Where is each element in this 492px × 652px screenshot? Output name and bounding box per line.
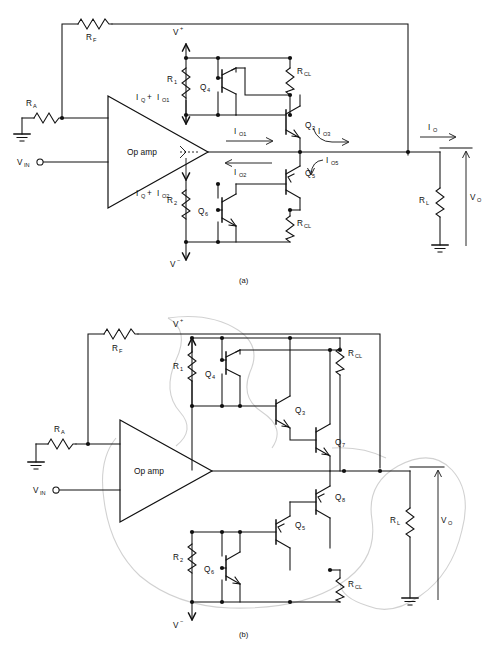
label-iq-io1-a-sub: Q [141, 97, 146, 103]
label-ra-sub-b: A [61, 429, 65, 435]
junction-dot [238, 530, 242, 534]
label-ra: R [26, 99, 32, 108]
label-rl-sub-b: L [397, 520, 400, 526]
label-iq-io1-b: I [157, 93, 159, 102]
label-io1-sub: O1 [239, 131, 246, 137]
label-r1-b: R [173, 362, 179, 371]
label-vo-b: V [441, 516, 447, 525]
pencil-mark [103, 438, 341, 608]
label-iq-io2-b-sub: O2 [162, 193, 169, 199]
label-rf: R [86, 33, 92, 42]
label-vin-sub: IN [24, 162, 30, 168]
label-r1: R [167, 75, 173, 84]
label-q7: Q [335, 438, 341, 447]
label-r2-sub: 2 [174, 200, 177, 206]
label-vminus-sup-b: − [180, 618, 183, 624]
label-q6-b: Q [204, 565, 210, 574]
label-io5: I [326, 156, 328, 165]
panel-a: R F R A V IN Op amp V + [14, 19, 482, 285]
label-rcl-top-sub: CL [304, 71, 311, 77]
label-iq-io1-b-sub: O1 [162, 97, 169, 103]
junction-dot [288, 208, 292, 212]
label-vminus: V [170, 260, 176, 269]
junction-dot [216, 113, 220, 117]
label-io2: I [234, 168, 236, 177]
label-io-sub: O [433, 127, 438, 133]
junction-dot [60, 116, 64, 120]
label-ra-b: R [54, 425, 60, 434]
label-q4-sub-b: 4 [212, 374, 215, 380]
label-q5-sub: 5 [312, 173, 315, 179]
label-q5-b: Q [295, 521, 301, 530]
label-q4: Q [200, 83, 206, 92]
label-rcl-top-b: R [348, 349, 354, 358]
label-rcl-bot-b: R [348, 580, 354, 589]
junction-dot [288, 113, 292, 117]
label-vplus-sup: + [180, 25, 183, 31]
label-iq-io2-b: I [157, 189, 159, 198]
junction-dot [328, 568, 332, 572]
label-io1: I [234, 127, 236, 136]
vin-terminal [37, 159, 43, 165]
label-vin-b: V [33, 486, 39, 495]
label-io3-sub: O3 [323, 131, 330, 137]
junction-dot [216, 240, 220, 244]
label-iq-io2-a-sub: Q [141, 193, 146, 199]
label-vo-sub-b: O [448, 520, 453, 526]
junction-dot [338, 348, 342, 352]
junction-dot [184, 113, 188, 117]
label-ra-sub: A [33, 103, 37, 109]
vin-terminal-b [53, 487, 59, 493]
junction-dot [288, 93, 292, 97]
junction-dot [288, 600, 292, 604]
label-vminus-sup: − [177, 257, 180, 263]
opamp-label: Op amp [127, 147, 157, 157]
opamp-label-b: Op amp [134, 466, 164, 476]
junction-dot [328, 348, 332, 352]
caption-b: (b) [239, 630, 249, 639]
label-r1-sub: 1 [174, 79, 177, 85]
junction-dot [220, 358, 224, 362]
label-rcl-bot-sub: CL [304, 223, 311, 229]
label-rf-sub: F [93, 37, 97, 43]
panel-b: R F R A V IN Op amp V + [28, 317, 465, 640]
pencil-mark [168, 318, 187, 446]
label-vplus-b: V [173, 320, 179, 329]
label-rl-b: R [390, 516, 396, 525]
junction-dot [220, 600, 224, 604]
label-vminus-b: V [173, 621, 179, 630]
junction-dot [342, 469, 346, 473]
junction-dot [220, 566, 224, 570]
label-rf-b: R [112, 344, 118, 353]
label-q8: Q [335, 493, 341, 502]
junction-dot [406, 150, 410, 154]
label-iq-io2-a: I [136, 189, 138, 198]
label-rcl-top: R [297, 67, 303, 76]
label-iq-io1-a: I [136, 93, 138, 102]
junction-dot [288, 56, 292, 60]
junction-dot [216, 76, 220, 80]
junction-dot [378, 469, 382, 473]
label-q8-sub: 8 [342, 497, 345, 503]
label-rl-sub: L [426, 200, 429, 206]
label-q6-sub-b: 6 [211, 569, 214, 575]
label-rcl-bot-sub-b: CL [355, 584, 362, 590]
label-vo: V [470, 193, 476, 202]
label-q5-sub-b: 5 [302, 525, 305, 531]
junction-dot [184, 56, 188, 60]
label-q6-sub: 6 [205, 211, 208, 217]
label-io: I [428, 123, 430, 132]
junction-dot [86, 442, 90, 446]
figure-page: R F R A V IN Op amp V + [0, 0, 492, 652]
label-rcl-bot: R [297, 219, 303, 228]
label-iq-io1-plus: + [147, 93, 152, 102]
label-vplus: V [173, 28, 179, 37]
label-q3-sub-b: 3 [302, 410, 305, 416]
label-r2-sub-b: 2 [180, 557, 183, 563]
label-r2-b: R [173, 553, 179, 562]
label-rcl-top-sub-b: CL [355, 353, 362, 359]
caption-a: (a) [239, 276, 249, 285]
label-q4-b: Q [205, 370, 211, 379]
label-q4-sub: 4 [207, 87, 210, 93]
label-vin-sub-b: IN [40, 490, 46, 496]
